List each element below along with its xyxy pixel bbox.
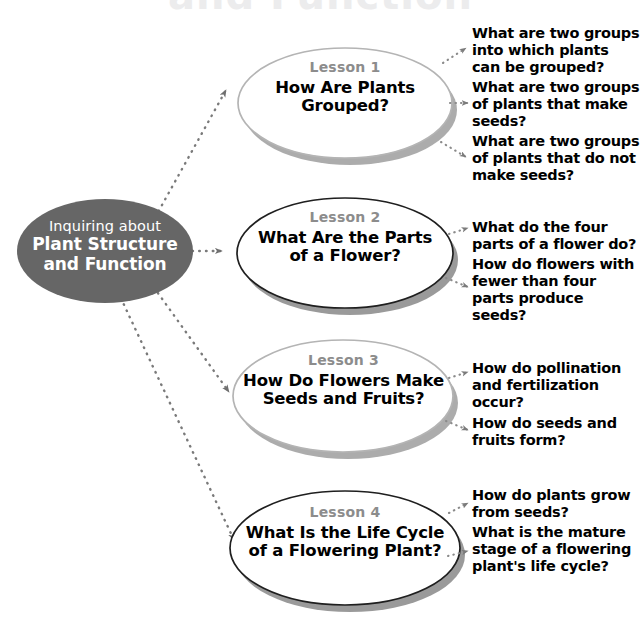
lesson-1-question-1: What are two groups into which plants ca… (472, 25, 640, 76)
lesson-3-title-line-2: Seeds and Fruits? (233, 390, 454, 409)
connector-center-to-lesson-3 (150, 282, 229, 392)
lesson-3-label: Lesson 3 (233, 353, 454, 369)
lesson-3-question-1: How do pollination and fertilization occ… (472, 360, 640, 411)
lesson-4-question-2: What is the mature stage of a flowering … (472, 524, 640, 575)
lesson-4-label: Lesson 4 (230, 505, 460, 521)
connector-center-to-lesson-1 (152, 90, 226, 223)
lesson-1-question-2: What are two groups of plants that make … (472, 79, 640, 130)
lesson-2-text[interactable]: Lesson 2 What Are the Parts of a Flower? (236, 210, 454, 266)
connector-lesson-1-question-3 (441, 142, 466, 157)
center-node-line-2: Plant Structure (10, 235, 200, 254)
lesson-3-question-2: How do seeds and fruits form? (472, 415, 640, 449)
lesson-4-title-line-1: What Is the Life Cycle (230, 524, 460, 543)
lesson-4-title-line-2: of a Flowering Plant? (230, 542, 460, 561)
lesson-1-question-3: What are two groups of plants that do no… (472, 133, 640, 184)
lesson-1-text[interactable]: Lesson 1 How Are Plants Grouped? (237, 60, 453, 116)
lesson-2-title-line-1: What Are the Parts (236, 229, 454, 248)
lesson-1-title-line-1: How Are Plants (237, 79, 453, 98)
lesson-1-title-line-2: Grouped? (237, 97, 453, 116)
lesson-2-question-2: How do flowers with fewer than four part… (472, 256, 640, 324)
center-node-text: Inquiring about Plant Structure and Func… (10, 218, 200, 274)
diagram-canvas: and Function (0, 0, 641, 629)
lesson-2-label: Lesson 2 (236, 210, 454, 226)
center-node-line-3: and Function (10, 255, 200, 274)
lesson-3-title-line-1: How Do Flowers Make (233, 372, 454, 391)
lesson-4-text[interactable]: Lesson 4 What Is the Life Cycle of a Flo… (230, 505, 460, 561)
lesson-4-question-1: How do plants grow from seeds? (472, 487, 640, 521)
center-node-line-1: Inquiring about (10, 218, 200, 234)
lesson-1-label: Lesson 1 (237, 60, 453, 76)
connector-center-to-lesson-4 (118, 292, 234, 540)
lesson-3-text[interactable]: Lesson 3 How Do Flowers Make Seeds and F… (233, 353, 454, 409)
lesson-2-question-1: What do the four parts of a flower do? (472, 219, 640, 253)
lesson-2-title-line-2: of a Flower? (236, 247, 454, 266)
